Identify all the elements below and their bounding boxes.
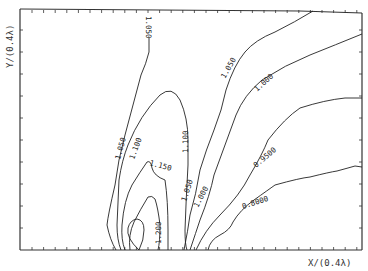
label-1000-right-upper: 1.000: [252, 71, 275, 93]
label-0950: 0.9500: [252, 145, 279, 170]
label-1100-right: 1.100: [181, 130, 190, 153]
label-1050-right-lower: 1.050: [179, 178, 195, 203]
contour-labels: 1.050 1.050 1.100 1.100 1.150 1.200 1.05…: [113, 16, 278, 244]
plot-frame: [20, 9, 362, 250]
contour-1000-right: [190, 34, 362, 250]
label-1150: 1.150: [148, 158, 173, 173]
label-1200: 1.200: [154, 221, 163, 244]
contour-lines: [107, 11, 362, 250]
label-1050-left: 1.050: [113, 136, 128, 161]
contour-1050-right: [184, 11, 313, 250]
label-0800: 0.8000: [241, 194, 270, 211]
contour-plot: Y/(0.4λ) X/(0.4λ) 1.050 1.050 1.100 1.10…: [0, 0, 368, 271]
contour-0950: [196, 98, 362, 250]
contour-0800: [208, 166, 362, 250]
label-1050-top: 1.050: [144, 16, 153, 39]
x-axis-label: X/(0.4λ): [308, 258, 351, 268]
y-axis-label: Y/(0.4λ): [5, 25, 15, 68]
